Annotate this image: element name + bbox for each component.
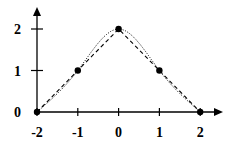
data-points (34, 26, 204, 115)
x-tick-label: 2 (197, 125, 204, 140)
smooth-interpolation-curve (37, 29, 200, 112)
x-tick-label: -2 (31, 125, 43, 140)
x-axis-arrow-icon (214, 108, 223, 116)
y-tick-label: 1 (14, 64, 21, 79)
data-point (34, 109, 40, 115)
x-tick-label: 1 (156, 125, 163, 140)
data-point (75, 67, 81, 73)
data-point (156, 67, 162, 73)
curves (37, 29, 200, 112)
x-tick-label: -1 (72, 125, 84, 140)
data-point (197, 109, 203, 115)
linear-interpolation-line (37, 29, 200, 112)
y-axis-arrow-icon (33, 7, 41, 16)
axes (31, 7, 223, 116)
x-tick-label: 0 (115, 125, 122, 140)
y-tick-label: 0 (14, 105, 21, 120)
y-tick-label: 2 (14, 22, 21, 37)
chart: -2-1012012 (0, 0, 230, 144)
data-point (115, 26, 121, 32)
